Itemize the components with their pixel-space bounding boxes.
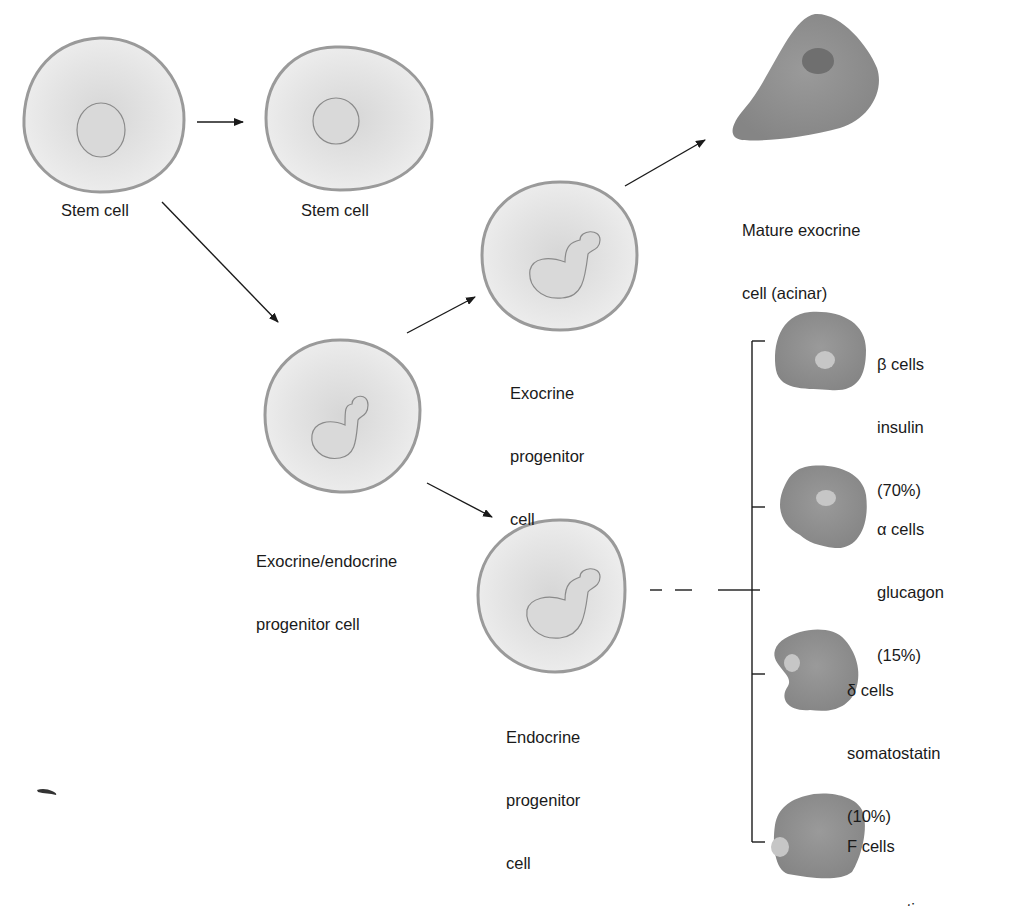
nucleus-icon [815, 351, 835, 369]
nucleus-icon [816, 490, 836, 506]
arrow-to-mature-exocrine [625, 140, 705, 186]
label-exo-endo-progenitor: Exocrine/endocrine progenitor cell [256, 509, 397, 656]
endocrine-bracket [650, 341, 765, 842]
arrow-to-endocrine-progenitor [427, 483, 492, 517]
arrow-to-exocrine-progenitor [407, 297, 475, 333]
exo-endo-progenitor-cell [265, 340, 420, 492]
label-endocrine-progenitor: Endocrine progenitor cell [506, 685, 580, 895]
mature-exocrine-cell [733, 14, 879, 141]
delta-cell [774, 630, 858, 711]
stem-cell-1 [24, 38, 184, 192]
stem-cell-2 [266, 47, 432, 190]
label-stem-cell-1: Stem cell [61, 200, 129, 221]
nucleus-icon [784, 654, 800, 672]
nucleus-icon [802, 48, 834, 74]
label-exocrine-progenitor: Exocrine progenitor cell [510, 341, 584, 551]
arrow-stem-to-progenitor [162, 202, 278, 322]
nucleus-icon [313, 98, 359, 144]
smudge-mark [37, 789, 56, 795]
alpha-cell [780, 466, 867, 549]
nucleus-icon [77, 103, 125, 157]
nucleus-icon [771, 837, 789, 857]
exocrine-progenitor-cell [482, 182, 637, 330]
label-mature-exocrine: Mature exocrine cell (acinar) [742, 178, 860, 325]
label-f-cells: F cells pancreatic polypeptide (5%) [847, 794, 931, 906]
label-stem-cell-2: Stem cell [301, 200, 369, 221]
